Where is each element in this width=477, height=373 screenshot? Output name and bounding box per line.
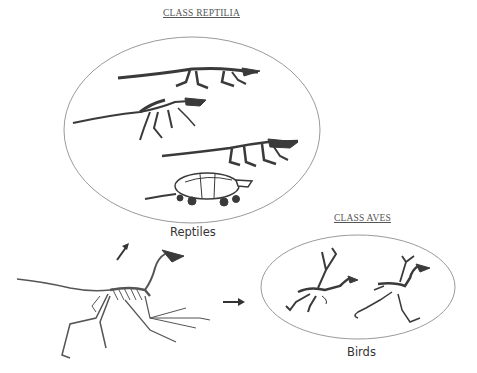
evolution-diagram <box>0 0 477 373</box>
ancestral-dinosaur-skeleton-icon <box>17 250 210 358</box>
bird-skeleton-2-icon <box>355 256 430 322</box>
arrow-to-birds-icon <box>223 298 245 306</box>
early-archosaur-skeleton-icon <box>73 98 206 140</box>
crocodilian-skeleton-icon <box>118 68 260 88</box>
aves-ellipse <box>261 235 455 339</box>
bird-skeleton-1-icon <box>286 248 358 312</box>
turtle-skeleton-icon <box>145 173 252 206</box>
lizard-skeleton-icon <box>162 139 298 166</box>
arrow-to-reptiles-icon <box>117 243 129 260</box>
